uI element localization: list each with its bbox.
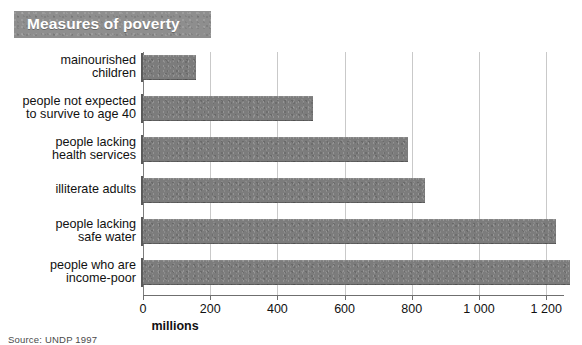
tick-mark-800 [412, 295, 413, 300]
x-axis-line [143, 295, 564, 296]
tick-mark-1200 [546, 295, 547, 300]
gridline-1000 [479, 52, 480, 295]
x-tick-label-800: 800 [401, 302, 422, 316]
x-tick-label-1200: 1 200 [531, 302, 562, 316]
gridline-200 [210, 52, 211, 295]
bar [143, 137, 408, 162]
x-tick-label-0: 0 [140, 302, 147, 316]
x-tick-label-400: 400 [267, 302, 288, 316]
bar [143, 96, 313, 121]
x-tick-label-1000: 1 000 [463, 302, 494, 316]
gridline-1200 [546, 52, 547, 295]
category-label: people who are income-poor [0, 259, 136, 285]
gridline-800 [412, 52, 413, 295]
gridline-600 [345, 52, 346, 295]
category-label: people lacking health services [0, 136, 136, 162]
tick-mark-0 [143, 295, 144, 300]
y-axis-line [143, 52, 144, 295]
category-label: people not expected to survive to age 40 [0, 95, 136, 121]
bar [143, 219, 556, 244]
category-label: people lacking safe water [0, 218, 136, 244]
category-label: mainourished children [0, 54, 136, 80]
category-label: illiterate adults [0, 183, 136, 196]
x-tick-label-200: 200 [200, 302, 221, 316]
bar [143, 178, 425, 203]
tick-mark-600 [345, 295, 346, 300]
x-tick-label-600: 600 [334, 302, 355, 316]
bar [143, 260, 570, 285]
tick-mark-200 [210, 295, 211, 300]
tick-mark-1000 [479, 295, 480, 300]
bar [143, 55, 196, 80]
source-note: Source: UNDP 1997 [8, 334, 97, 345]
tick-mark-400 [277, 295, 278, 300]
gridline-400 [277, 52, 278, 295]
